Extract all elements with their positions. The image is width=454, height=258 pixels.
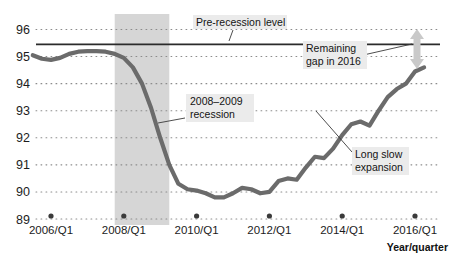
x-axis-tick-label: 2008/Q1 [102,224,146,236]
x-axis-tick-dot [48,213,53,218]
annotation-recession-band: 2008–2009 recession [186,94,254,122]
x-axis-tick-label: 2014/Q1 [320,224,364,236]
annotation-remaining-gap-line2: gap in 2016 [306,55,361,67]
y-axis-tick-label: 90 [16,185,30,199]
pre-recession-leader-line [229,30,233,41]
x-axis-title: Year/quarter [387,241,448,253]
annotation-long-slow-expansion-line1: Long slow [355,148,403,160]
annotation-remaining-gap: Remaining gap in 2016 [303,41,367,69]
y-axis-tick-label: 95 [16,50,30,64]
x-axis-tick-dot [194,213,199,218]
remaining-gap-arrow-icon [410,29,424,69]
x-axis-tick-dot [121,213,126,218]
annotation-long-slow-expansion-line2: expansion [355,161,403,173]
annotation-recession-band-line1: 2008–2009 [190,95,243,107]
y-axis-tick-label: 96 [16,23,30,37]
x-axis-tick-label: 2012/Q1 [247,224,291,236]
recession-shaded-band [115,14,170,225]
y-axis-tick-label: 91 [16,158,30,172]
y-axis-tick-label: 94 [16,77,30,91]
y-axis-tick-labels: 8990919293949596 [16,23,30,227]
y-axis-tick-label: 89 [16,213,30,227]
y-axis-tick-label: 93 [16,104,30,118]
chart-container: 8990919293949596 2006/Q12008/Q12010/Q120… [0,0,454,258]
y-axis-tick-label: 92 [16,131,30,145]
x-axis-tick-label: 2016/Q1 [393,224,437,236]
x-axis-tick-label: 2006/Q1 [29,224,73,236]
annotation-remaining-gap-line1: Remaining [306,42,356,54]
x-axis-tick-dot [412,213,417,218]
x-axis-tick-labels: 2006/Q12008/Q12010/Q12012/Q12014/Q12016/… [29,224,437,236]
x-axis-tick-dot [267,213,272,218]
index-level-line [33,51,424,197]
recession-gap-line-chart: 8990919293949596 2006/Q12008/Q12010/Q120… [0,0,454,258]
annotation-recession-band-line2: recession [190,108,235,120]
x-axis-tick-label: 2010/Q1 [175,224,219,236]
annotation-pre-recession-level: Pre-recession level [193,15,287,29]
x-axis-tick-dots [48,213,417,218]
x-axis-tick-dot [340,213,345,218]
annotation-pre-recession-level-text: Pre-recession level [196,16,285,28]
annotation-long-slow-expansion: Long slow expansion [352,147,409,175]
